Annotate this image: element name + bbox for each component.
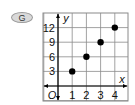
- x-axis-label: x: [118, 73, 125, 85]
- y-tick-label: 6: [49, 51, 55, 63]
- y-axis-label: y: [62, 12, 70, 24]
- data-point: [83, 54, 89, 60]
- y-tick-label: 3: [49, 65, 55, 77]
- x-tick-label: 2: [83, 89, 89, 101]
- x-tick-label: 4: [112, 89, 118, 101]
- data-point: [69, 68, 75, 74]
- y-axis-arrow-up-icon: [56, 14, 60, 18]
- scatter-plot: 123436912Oyx: [0, 0, 135, 105]
- y-tick-label: 9: [49, 36, 55, 48]
- x-axis-arrow-left-icon: [44, 84, 48, 88]
- origin-label: O: [48, 89, 57, 101]
- data-point: [97, 39, 103, 45]
- x-tick-label: 1: [69, 89, 75, 101]
- x-tick-label: 3: [98, 89, 104, 101]
- y-axis-arrow-down-icon: [56, 96, 60, 100]
- y-tick-label: 12: [43, 22, 55, 34]
- data-point: [112, 24, 118, 30]
- data-points: [69, 24, 118, 74]
